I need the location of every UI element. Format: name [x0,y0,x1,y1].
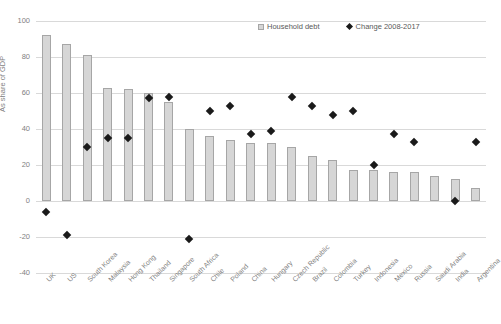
bar [287,147,296,201]
bar [83,55,92,201]
y-tick-label: 100 [6,16,30,25]
chart-legend: Household debt Change 2008-2017 [258,22,420,31]
y-tick-label: -20 [6,232,30,241]
data-point-marker [226,101,234,109]
bar [471,188,480,201]
data-point-marker [390,130,398,138]
data-point-marker [62,231,70,239]
y-tick-label: -40 [6,268,30,277]
bar [164,102,173,201]
bar [124,89,133,201]
bar [389,172,398,201]
data-point-marker [247,130,255,138]
bar [349,170,358,201]
data-point-marker [349,107,357,115]
bar-swatch-icon [258,24,264,30]
bar [144,93,153,201]
bar [308,156,317,201]
bar [185,129,194,201]
y-tick-label: 60 [6,88,30,97]
data-point-marker [328,110,336,118]
gridline [36,201,486,202]
data-point-marker [206,107,214,115]
y-tick-label: 40 [6,124,30,133]
data-point-marker [267,127,275,135]
data-point-marker [369,161,377,169]
y-tick-label: 20 [6,160,30,169]
bar [205,136,214,201]
data-point-marker [410,137,418,145]
gridline [36,57,486,58]
bar [267,143,276,201]
y-tick-label: 0 [6,196,30,205]
diamond-marker-icon [346,23,353,30]
bar [430,176,439,201]
gridline [36,237,486,238]
bar [246,143,255,201]
data-point-marker [42,208,50,216]
y-tick-label: 80 [6,52,30,61]
legend-label-change: Change 2008-2017 [356,22,420,31]
bar [103,88,112,201]
data-point-marker [308,101,316,109]
bar [42,35,51,201]
bar [62,44,71,201]
plot-area [36,21,486,273]
bar [328,160,337,201]
legend-item-household-debt: Household debt [258,22,320,31]
bar [226,140,235,201]
data-point-marker [185,235,193,243]
y-axis-title: As share of GDP [0,56,7,112]
legend-item-change: Change 2008-2017 [346,22,420,31]
legend-label-household-debt: Household debt [267,22,320,31]
bar [369,170,378,201]
bar [410,172,419,201]
data-point-marker [472,137,480,145]
